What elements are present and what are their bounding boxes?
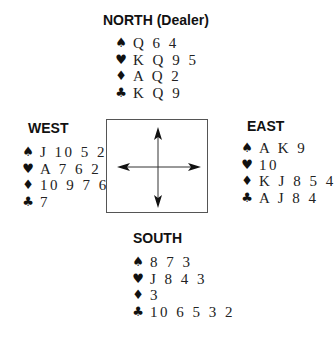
east-hearts-cards: 10 (259, 157, 279, 173)
club-icon: ♣ (115, 85, 127, 101)
south-spades-cards: 8 7 3 (150, 254, 193, 270)
club-icon: ♣ (132, 304, 144, 320)
heart-icon: ♥ (132, 271, 144, 287)
diamond-icon: ♦ (115, 68, 127, 84)
south-diamonds-cards: 3 (150, 287, 160, 303)
diamond-icon: ♦ (22, 177, 34, 193)
heart-icon: ♥ (22, 161, 34, 177)
club-icon: ♣ (22, 194, 34, 210)
compass-box (106, 119, 208, 213)
spade-icon: ♠ (241, 140, 253, 156)
east-diamonds-cards: K J 8 5 4 (259, 173, 336, 189)
spade-icon: ♠ (22, 144, 34, 160)
diamond-icon: ♦ (241, 173, 253, 189)
heart-icon: ♥ (241, 157, 253, 173)
east-heading: EAST (247, 118, 284, 134)
compass-arrows-icon (107, 120, 209, 214)
heart-icon: ♥ (115, 52, 127, 68)
diamond-icon: ♦ (132, 287, 144, 303)
west-spades-cards: J 10 5 2 (40, 144, 107, 160)
north-spades-cards: Q 6 4 (133, 35, 179, 51)
north-diamonds-cards: A Q 2 (133, 68, 181, 84)
north-heading: NORTH (Dealer) (103, 12, 209, 28)
spade-icon: ♠ (132, 254, 144, 270)
north-hearts-cards: K Q 9 5 (133, 52, 198, 68)
east-clubs-cards: A J 8 4 (259, 190, 319, 206)
spade-icon: ♠ (115, 35, 127, 51)
west-heading: WEST (28, 120, 68, 136)
north-clubs-cards: K Q 9 (133, 85, 182, 101)
west-hearts-cards: A 7 6 2 (40, 161, 101, 177)
club-icon: ♣ (241, 190, 253, 206)
south-clubs-cards: 10 6 5 3 2 (150, 304, 235, 320)
south-heading: SOUTH (133, 230, 182, 246)
west-diamonds-cards: 10 9 7 6 (40, 177, 109, 193)
west-clubs-cards: 7 (40, 194, 50, 210)
east-spades-cards: A K 9 (259, 140, 307, 156)
south-hearts-cards: J 8 4 3 (150, 271, 207, 287)
